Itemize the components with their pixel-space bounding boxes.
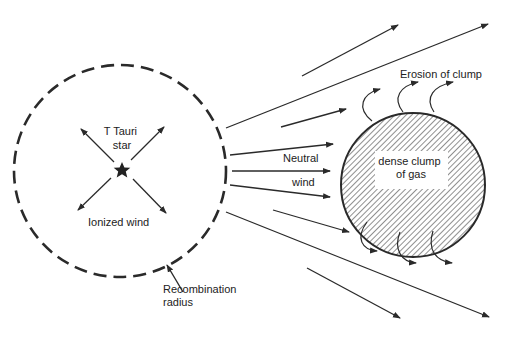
diagram-canvas: T Tauri star Ionized wind Recombination … — [0, 0, 509, 339]
ionized-wind-label: Ionized wind — [88, 216, 149, 228]
erosion-label: Erosion of clump — [400, 68, 482, 80]
star-label: T Tauri star — [104, 125, 140, 151]
star-icon — [114, 162, 131, 177]
neutral-label: Neutral — [283, 152, 318, 164]
wind-label: wind — [291, 176, 315, 188]
recombination-label: Recombination radius — [163, 283, 239, 308]
